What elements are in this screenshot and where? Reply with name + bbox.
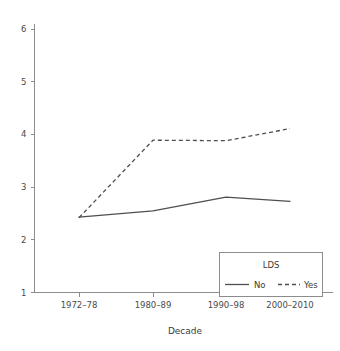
- x-tick-label: 1990–98: [208, 300, 245, 310]
- line-chart-figure: 123456 1972–781980–891990–982000–2010 LD…: [0, 0, 340, 351]
- legend-title: LDS: [263, 260, 280, 270]
- y-tick-label: 1: [21, 288, 26, 298]
- y-tick-label: 3: [21, 182, 26, 192]
- x-axis-title: Decade: [168, 326, 203, 336]
- y-tick-group: 123456: [21, 24, 34, 298]
- y-axis: 123456: [21, 24, 34, 298]
- legend[interactable]: LDS No Yes: [220, 253, 323, 297]
- chart-canvas: 123456 1972–781980–891990–982000–2010 LD…: [0, 0, 340, 351]
- y-tick-label: 6: [21, 24, 26, 34]
- legend-label-no[interactable]: No: [254, 280, 266, 290]
- series-line-no: [79, 197, 290, 217]
- x-tick-label: 1980–89: [135, 300, 172, 310]
- x-tick-label: 1972–78: [61, 300, 98, 310]
- x-tick-label: 2000–2010: [266, 300, 314, 310]
- y-tick-label: 5: [21, 77, 26, 87]
- series-group: [79, 129, 290, 218]
- y-tick-label: 4: [21, 129, 26, 139]
- y-tick-label: 2: [21, 235, 26, 245]
- legend-label-yes[interactable]: Yes: [303, 280, 318, 290]
